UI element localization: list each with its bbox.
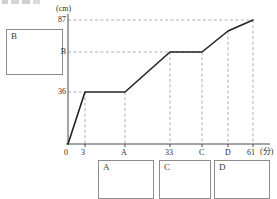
x-tick-3: 3 xyxy=(81,148,85,157)
y-tick-B: B xyxy=(52,47,66,56)
x-axis-unit: (分) xyxy=(260,147,273,156)
x-tick-C: C xyxy=(199,148,204,157)
line-chart: (cm) 87 B 36 0 3 A 33 C D 61 (分) xyxy=(0,0,277,199)
horizontal-guides xyxy=(68,20,253,92)
y-axis-unit: (cm) xyxy=(56,4,71,13)
data-line xyxy=(68,20,253,144)
x-tick-D: D xyxy=(225,148,231,157)
x-tick-61: 61 xyxy=(247,148,255,157)
x-tick-A: A xyxy=(121,148,127,157)
chart-svg xyxy=(0,0,277,199)
x-tick-33: 33 xyxy=(165,148,173,157)
y-tick-87: 87 xyxy=(52,15,66,24)
y-tick-36: 36 xyxy=(52,87,66,96)
vertical-guides xyxy=(85,20,253,144)
figure-root: B A C D xyxy=(0,0,277,199)
x-tick-0: 0 xyxy=(64,148,68,157)
